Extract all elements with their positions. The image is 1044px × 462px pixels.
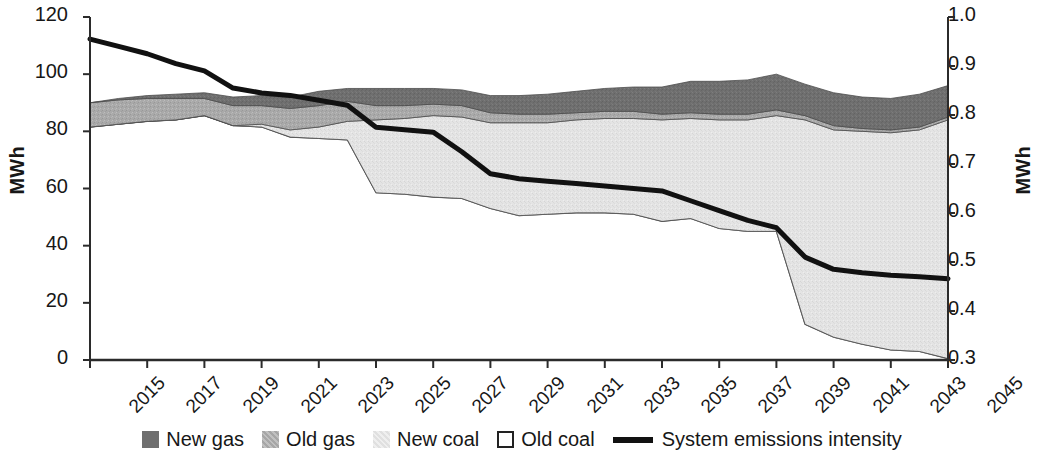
- legend-item-label: Old coal: [521, 428, 594, 451]
- legend-item[interactable]: Old gas: [262, 428, 355, 451]
- legend-color-swatch-icon: [373, 431, 390, 448]
- legend-item-label: New coal: [397, 428, 479, 451]
- legend-item[interactable]: New coal: [373, 428, 479, 451]
- legend-item[interactable]: New gas: [142, 428, 244, 451]
- legend-color-swatch-icon: [262, 431, 279, 448]
- legend-line-swatch-icon: [613, 437, 653, 443]
- legend-color-swatch-icon: [497, 431, 514, 448]
- legend-item[interactable]: Old coal: [497, 428, 594, 451]
- legend-item-label: Old gas: [286, 428, 355, 451]
- plot-area: [0, 0, 1044, 462]
- legend-color-swatch-icon: [142, 431, 159, 448]
- legend-item[interactable]: System emissions intensity: [613, 428, 902, 451]
- legend-item-label: New gas: [166, 428, 244, 451]
- chart-legend: New gasOld gasNew coalOld coalSystem emi…: [0, 428, 1044, 451]
- emissions-stacked-area-chart: MWh MWh 020406080100120 0.30.40.50.60.70…: [0, 0, 1044, 462]
- legend-item-label: System emissions intensity: [662, 428, 902, 451]
- stacked-areas: [90, 74, 948, 360]
